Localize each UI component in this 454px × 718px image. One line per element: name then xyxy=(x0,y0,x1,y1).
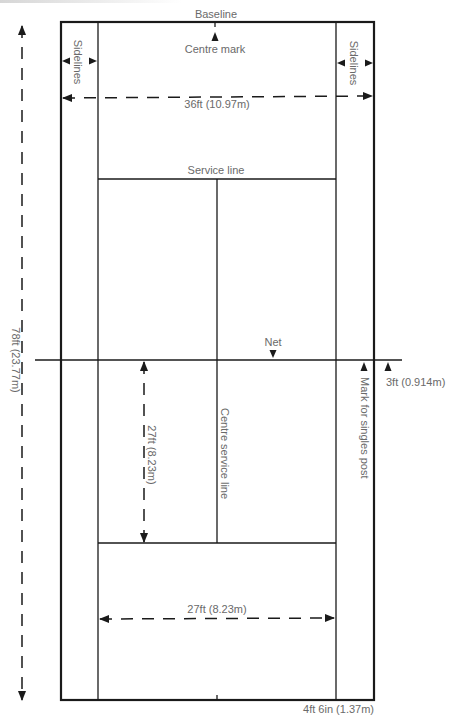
dimension-arrows xyxy=(22,26,372,700)
centre-mark-pointer-icon xyxy=(212,32,219,41)
singles-width-arrow xyxy=(100,618,334,619)
labels: Baseline Centre mark 36ft (10.97m) Servi… xyxy=(10,8,445,715)
post-offset-pointer-icon xyxy=(385,362,392,371)
sidelines-left-pointer-icon xyxy=(62,58,70,65)
sidelines-left-label: Sidelines xyxy=(72,40,84,85)
net-to-service-label: 27ft (8.23m) xyxy=(146,425,158,484)
singles-post-mark-label: Mark for singles post xyxy=(359,377,371,478)
sidelines-right-label: Sidelines xyxy=(348,41,360,86)
singles-post-pointer-icon xyxy=(361,362,368,371)
singles-width-label: 27ft (8.23m) xyxy=(187,603,246,615)
court-lines xyxy=(35,22,402,700)
overall-width-label: 36ft (10.97m) xyxy=(184,98,249,110)
centre-mark-label: Centre mark xyxy=(185,43,246,55)
service-line-label: Service line xyxy=(188,164,245,176)
pointer-arrows xyxy=(62,32,392,371)
alley-width-label: 4ft 6in (1.37m) xyxy=(303,703,374,715)
tennis-court-diagram: Baseline Centre mark 36ft (10.97m) Servi… xyxy=(0,0,454,718)
sidelines-left-pointer2-icon xyxy=(89,58,97,65)
sidelines-right-pointer-icon xyxy=(337,60,345,67)
net-label: Net xyxy=(264,336,281,348)
baseline-label: Baseline xyxy=(195,8,237,20)
net-pointer-icon xyxy=(270,350,277,358)
sidelines-right-pointer2-icon xyxy=(365,60,373,67)
post-offset-label: 3ft (0.914m) xyxy=(386,376,445,388)
centre-service-line-label: Centre service line xyxy=(219,408,231,499)
overall-length-label: 78ft (23.77m) xyxy=(10,327,22,392)
